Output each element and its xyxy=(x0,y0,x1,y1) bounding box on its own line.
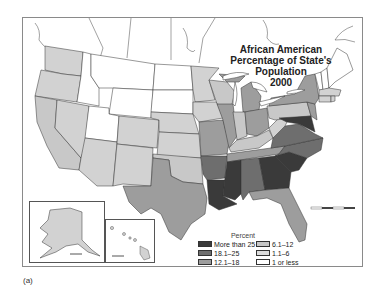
state-montana xyxy=(91,54,155,90)
figure-caption: (a) xyxy=(23,276,33,285)
legend-item: 6.1–12 xyxy=(256,240,308,248)
title-line-1: African American xyxy=(208,44,354,55)
alaska-shape xyxy=(30,202,104,262)
legend-item: 1.1–6 xyxy=(256,249,308,257)
state-wyoming xyxy=(109,88,153,118)
state-washington xyxy=(45,46,83,76)
state-arkansas xyxy=(201,156,227,180)
legend-swatch xyxy=(198,241,212,247)
legend-header: Percent xyxy=(178,232,308,239)
legend-label: 12.1–18 xyxy=(214,259,239,266)
alaska-inset xyxy=(29,201,105,263)
map-title: African American Percentage of State's P… xyxy=(208,44,354,88)
legend-label: 1.1–6 xyxy=(272,250,290,257)
legend: Percent More than 25 6.1–12 18.1–25 1.1–… xyxy=(198,232,308,266)
title-line-2: Percentage of State's Population xyxy=(208,55,354,77)
hawaii-shape xyxy=(106,220,154,262)
legend-label: 1 or less xyxy=(272,259,298,266)
legend-label: 6.1–12 xyxy=(272,241,293,248)
state-massachusetts xyxy=(319,88,341,96)
state-new-mexico xyxy=(113,144,153,186)
state-colorado xyxy=(117,116,159,148)
title-line-3: 2000 xyxy=(208,77,354,88)
hawaii-inset xyxy=(105,219,155,263)
legend-item: 1 or less xyxy=(256,258,308,266)
state-arizona xyxy=(79,138,117,186)
legend-swatch xyxy=(198,250,212,256)
legend-item: 18.1–25 xyxy=(198,249,256,257)
legend-label: More than 25 xyxy=(214,241,255,248)
legend-swatch xyxy=(256,259,270,265)
legend-item: More than 25 xyxy=(198,240,256,248)
state-rhode-island xyxy=(331,96,335,102)
state-connecticut xyxy=(319,96,331,102)
legend-swatch xyxy=(256,250,270,256)
legend-swatch xyxy=(256,241,270,247)
scale-bar xyxy=(309,199,357,209)
state-kansas xyxy=(157,132,201,158)
legend-item: 12.1–18 xyxy=(198,258,256,266)
state-north-dakota xyxy=(153,64,193,90)
state-south-dakota xyxy=(151,90,193,114)
legend-label: 18.1–25 xyxy=(214,250,239,257)
legend-swatch xyxy=(198,259,212,265)
